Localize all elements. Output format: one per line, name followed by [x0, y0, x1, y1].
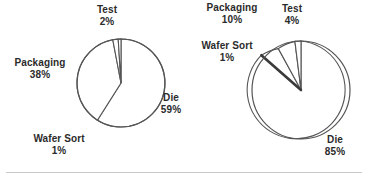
left-label-die: Die 59%: [152, 92, 190, 115]
right-label-packaging: Packaging 10%: [196, 2, 268, 25]
right-label-wafer-sort-name: Wafer Sort: [190, 40, 264, 52]
right-label-test: Test 4%: [273, 3, 311, 26]
left-label-packaging-percent: 38%: [4, 69, 76, 81]
right-label-test-name: Test: [273, 3, 311, 15]
left-label-packaging: Packaging 38%: [4, 57, 76, 80]
left-label-wafer-sort-name: Wafer Sort: [22, 133, 96, 145]
right-label-packaging-percent: 10%: [196, 14, 268, 26]
left-label-test-percent: 2%: [83, 16, 131, 28]
two-pie-chart-figure: Test 2% Packaging 38% Die 59% Wafer Sort…: [0, 0, 368, 178]
right-label-die-name: Die: [316, 134, 354, 146]
left-label-wafer-sort: Wafer Sort 1%: [22, 133, 96, 156]
right-label-die: Die 85%: [316, 134, 354, 157]
right-label-wafer-sort-percent: 1%: [190, 52, 264, 64]
left-label-die-percent: 59%: [152, 104, 190, 116]
right-label-test-percent: 4%: [273, 15, 311, 27]
right-label-packaging-name: Packaging: [196, 2, 268, 14]
right-label-wafer-sort: Wafer Sort 1%: [190, 40, 264, 63]
footer-divider: [6, 172, 362, 173]
left-label-test: Test 2%: [83, 4, 131, 27]
left-label-die-name: Die: [152, 92, 190, 104]
right-label-die-percent: 85%: [316, 146, 354, 158]
left-label-test-name: Test: [83, 4, 131, 16]
left-label-packaging-name: Packaging: [4, 57, 76, 69]
left-label-wafer-sort-percent: 1%: [22, 145, 96, 157]
